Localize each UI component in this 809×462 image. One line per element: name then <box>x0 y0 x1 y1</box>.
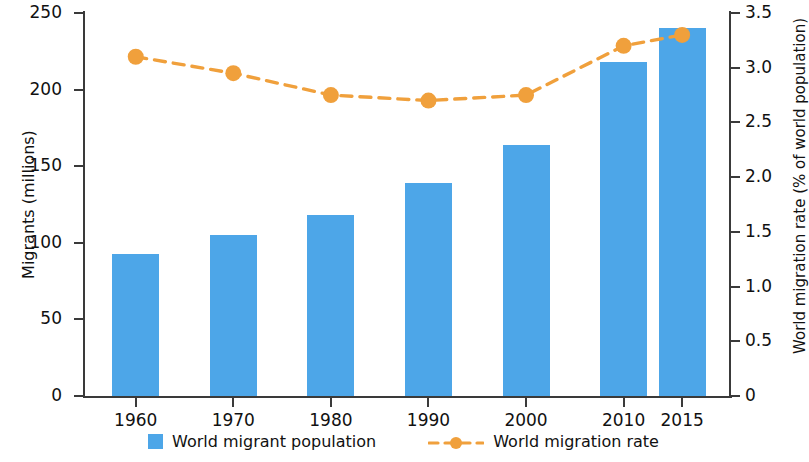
bar-2010 <box>600 62 647 396</box>
left-tick-mark <box>74 89 83 91</box>
right-tick-mark <box>731 67 740 69</box>
legend-swatch-bar-icon <box>148 434 163 449</box>
left-tick-mark <box>74 242 83 244</box>
x-tick-mark <box>330 398 332 407</box>
bar-2000 <box>503 145 550 396</box>
left-tick-mark <box>74 395 83 397</box>
right-tick-mark <box>731 121 740 123</box>
left-tick-label: 150 <box>2 157 62 174</box>
right-tick-label: 0 <box>745 387 805 404</box>
x-tick-mark <box>427 398 429 407</box>
left-tick-label: 250 <box>2 4 62 21</box>
left-axis-title: Migrants (millions) <box>19 75 38 335</box>
x-tick-mark <box>135 398 137 407</box>
x-tick-mark <box>525 398 527 407</box>
bar-1970 <box>210 235 257 396</box>
legend-item-migrant-population: World migrant population <box>148 432 376 451</box>
legend-label-migrant-population: World migrant population <box>172 432 376 451</box>
legend-item-migration-rate: World migration rate <box>428 432 659 451</box>
bar-2015 <box>659 28 706 396</box>
left-tick-label: 200 <box>2 81 62 98</box>
legend-label-migration-rate: World migration rate <box>493 432 659 451</box>
x-tick-mark <box>232 398 234 407</box>
right-tick-label: 1.5 <box>745 223 805 240</box>
left-tick-mark <box>74 165 83 167</box>
right-tick-label: 1.0 <box>745 278 805 295</box>
left-tick-label: 100 <box>2 234 62 251</box>
x-tick-mark <box>681 398 683 407</box>
x-axis-spine <box>83 396 732 398</box>
right-tick-mark <box>731 286 740 288</box>
right-axis-title: World migration rate (% of world populat… <box>791 44 809 354</box>
x-tick-label: 1960 <box>101 410 171 430</box>
x-tick-label: 1980 <box>296 410 366 430</box>
x-tick-label: 2015 <box>647 410 717 430</box>
right-tick-label: 2.5 <box>745 113 805 130</box>
line-marker-2010 <box>616 38 632 54</box>
right-tick-mark <box>731 176 740 178</box>
legend-swatch-line-icon <box>428 435 484 449</box>
x-tick-mark <box>623 398 625 407</box>
left-axis-spine <box>83 11 85 398</box>
x-tick-label: 1990 <box>393 410 463 430</box>
bar-1980 <box>307 215 354 396</box>
left-tick-mark <box>74 12 83 14</box>
left-tick-label: 0 <box>2 387 62 404</box>
right-tick-label: 3.5 <box>745 4 805 21</box>
line-marker-1980 <box>323 87 339 103</box>
right-tick-mark <box>731 12 740 14</box>
line-marker-2000 <box>518 87 534 103</box>
right-tick-label: 3.0 <box>745 59 805 76</box>
right-tick-mark <box>731 231 740 233</box>
chart-legend: World migrant population World migration… <box>0 432 807 451</box>
left-tick-label: 50 <box>2 310 62 327</box>
line-marker-1970 <box>225 65 241 81</box>
line-marker-1960 <box>128 49 144 65</box>
line-marker-1990 <box>420 93 436 109</box>
x-tick-label: 2000 <box>491 410 561 430</box>
right-tick-mark <box>731 340 740 342</box>
right-tick-mark <box>731 395 740 397</box>
bar-1990 <box>405 183 452 396</box>
right-tick-label: 2.0 <box>745 168 805 185</box>
right-tick-label: 0.5 <box>745 332 805 349</box>
left-tick-mark <box>74 318 83 320</box>
x-tick-label: 1970 <box>198 410 268 430</box>
bar-1960 <box>112 254 159 396</box>
